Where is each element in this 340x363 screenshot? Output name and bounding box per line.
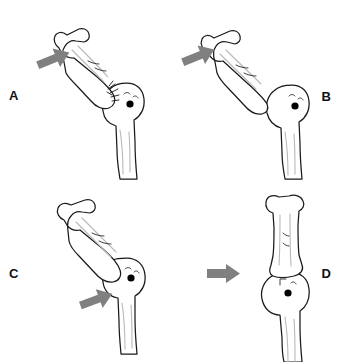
panel-label-d: D bbox=[322, 267, 331, 280]
angulated-long-bone-a bbox=[54, 29, 115, 109]
joint-center-dot-b bbox=[291, 102, 298, 109]
joint-center-dot-c bbox=[127, 274, 134, 281]
articular-head-bone-d bbox=[261, 272, 309, 362]
angulated-long-bone-c bbox=[57, 200, 120, 282]
panel-d-illustration bbox=[170, 181, 340, 362]
panel-c: C bbox=[0, 181, 170, 362]
panel-b: B bbox=[170, 0, 340, 181]
panel-a: A bbox=[0, 0, 170, 181]
joint-center-dot-d bbox=[284, 289, 291, 296]
panel-label-b: B bbox=[322, 90, 331, 103]
panel-label-c: C bbox=[9, 267, 18, 280]
figure-root: A B bbox=[0, 0, 340, 363]
angulated-long-bone-b bbox=[201, 31, 268, 114]
panel-label-a: A bbox=[9, 89, 18, 102]
panel-a-illustration bbox=[0, 0, 170, 181]
force-arrow-d bbox=[207, 264, 240, 283]
aligned-long-bone-d bbox=[266, 195, 304, 277]
joint-center-dot-a bbox=[126, 100, 133, 107]
articular-head-bone-b bbox=[266, 85, 309, 179]
panel-d: D bbox=[170, 181, 340, 362]
panel-c-illustration bbox=[0, 181, 170, 362]
panel-b-illustration bbox=[170, 0, 340, 181]
